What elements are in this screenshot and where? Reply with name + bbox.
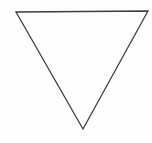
canvas-background — [0, 0, 152, 143]
drawing-canvas — [0, 0, 152, 143]
triangle-figure — [0, 0, 152, 143]
